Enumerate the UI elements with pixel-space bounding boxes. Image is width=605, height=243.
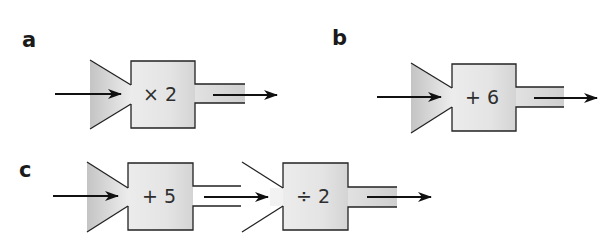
- machine-a: × 2: [55, 60, 277, 129]
- function-machine-diagram: a b c: [0, 0, 605, 243]
- operation-text: + 5: [142, 185, 176, 207]
- spout-shape: [194, 84, 245, 103]
- machines-canvas: × 2 + 6: [0, 0, 605, 243]
- operation-text: + 6: [465, 86, 499, 108]
- operation-text: ÷ 2: [296, 185, 330, 207]
- machine-b: + 6: [377, 63, 597, 133]
- operation-text: × 2: [143, 83, 177, 105]
- machine-c2: ÷ 2: [242, 162, 431, 232]
- funnel-mouth-shade: [270, 188, 283, 206]
